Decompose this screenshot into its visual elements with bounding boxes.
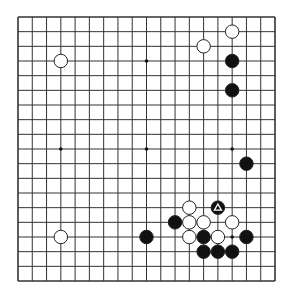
- white-stone[interactable]: [197, 216, 210, 229]
- star-point: [145, 147, 149, 151]
- white-stone[interactable]: [183, 201, 196, 214]
- black-stone[interactable]: [225, 84, 238, 97]
- black-stone[interactable]: [225, 54, 238, 67]
- white-stone[interactable]: [54, 54, 67, 67]
- white-stone[interactable]: [225, 25, 238, 38]
- black-stone[interactable]: [197, 230, 210, 243]
- black-stone[interactable]: [140, 230, 153, 243]
- stones-layer[interactable]: [54, 25, 253, 258]
- star-point: [59, 147, 63, 151]
- star-point: [230, 147, 234, 151]
- white-stone[interactable]: [225, 216, 238, 229]
- black-stone[interactable]: [240, 230, 253, 243]
- black-stone[interactable]: [240, 157, 253, 170]
- go-board[interactable]: [0, 0, 291, 299]
- white-stone[interactable]: [54, 230, 67, 243]
- star-point: [145, 59, 149, 63]
- black-stone[interactable]: [197, 245, 210, 258]
- white-stone[interactable]: [211, 230, 224, 243]
- star-point: [230, 235, 234, 239]
- white-stone[interactable]: [183, 230, 196, 243]
- black-stone[interactable]: [211, 245, 224, 258]
- white-stone[interactable]: [183, 216, 196, 229]
- white-stone[interactable]: [197, 40, 210, 53]
- black-stone[interactable]: [211, 201, 224, 214]
- black-stone[interactable]: [168, 216, 181, 229]
- black-stone[interactable]: [225, 245, 238, 258]
